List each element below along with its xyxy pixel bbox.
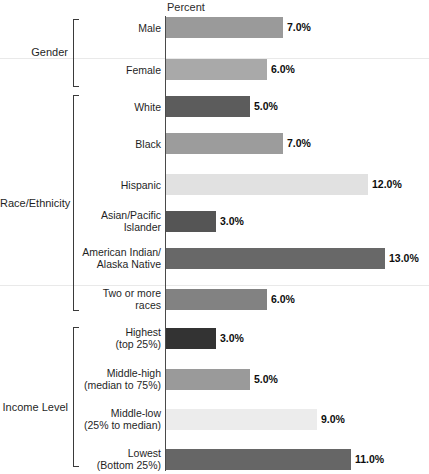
bar-value-black: 7.0% bbox=[287, 137, 311, 150]
bar-row-white[interactable]: White 5.0% bbox=[0, 96, 429, 117]
category-label-line1: Middle-high bbox=[72, 368, 161, 380]
group-bracket-race-ethnicity bbox=[73, 95, 79, 311]
group-label-race-ethnicity: Race/Ethnicity bbox=[0, 197, 68, 210]
bar-row-female[interactable]: Female 6.0% bbox=[0, 59, 429, 80]
bar-row-male[interactable]: Male 7.0% bbox=[0, 17, 429, 38]
category-label-lowest: Lowest (Bottom 25%) bbox=[82, 448, 161, 471]
bar-value-female: 6.0% bbox=[271, 63, 295, 76]
bar-hispanic[interactable] bbox=[166, 174, 368, 195]
category-label-two-or-more-races: Two or more races bbox=[82, 288, 161, 311]
category-label-line1: Asian/Pacific bbox=[82, 210, 161, 222]
bar-value-middle-low: 9.0% bbox=[321, 413, 345, 426]
bar-black[interactable] bbox=[166, 133, 283, 154]
category-label-line1: American Indian/ bbox=[72, 247, 161, 259]
category-label-line2: races bbox=[82, 300, 161, 312]
bar-value-lowest: 11.0% bbox=[355, 453, 384, 466]
bar-row-asian-pacific-islander[interactable]: Asian/Pacific Islander 3.0% bbox=[0, 211, 429, 232]
bar-value-white: 5.0% bbox=[254, 100, 278, 113]
bar-value-male: 7.0% bbox=[287, 21, 311, 34]
axis-title-percent: Percent bbox=[167, 1, 205, 14]
bar-row-middle-high[interactable]: Middle-high (median to 75%) 5.0% bbox=[0, 369, 429, 390]
bar-value-two-or-more-races: 6.0% bbox=[271, 293, 295, 306]
bar-row-two-or-more-races[interactable]: Two or more races 6.0% bbox=[0, 289, 429, 310]
category-label-asian-pacific-islander: Asian/Pacific Islander bbox=[82, 210, 161, 233]
category-label-line2: (top 25%) bbox=[82, 339, 161, 351]
bar-middle-high[interactable] bbox=[166, 369, 250, 390]
bar-row-lowest[interactable]: Lowest (Bottom 25%) 11.0% bbox=[0, 449, 429, 470]
category-label-middle-low: Middle-low (25% to median) bbox=[72, 408, 161, 431]
bar-row-black[interactable]: Black 7.0% bbox=[0, 133, 429, 154]
category-label-line1: Middle-low bbox=[72, 408, 161, 420]
category-label-black: Black bbox=[82, 138, 161, 150]
bar-female[interactable] bbox=[166, 59, 267, 80]
category-label-female: Female bbox=[82, 64, 161, 76]
bar-two-or-more-races[interactable] bbox=[166, 289, 267, 310]
category-label-middle-high: Middle-high (median to 75%) bbox=[72, 368, 161, 391]
category-axis-line bbox=[165, 16, 166, 471]
group-label-gender: Gender bbox=[0, 46, 68, 59]
category-label-line2: Alaska Native bbox=[72, 259, 161, 271]
bar-chart: Percent Gender Male 7.0% Female 6.0% Rac… bbox=[0, 0, 429, 474]
category-label-line2: Islander bbox=[82, 222, 161, 234]
category-label-line1: Two or more bbox=[82, 288, 161, 300]
category-label-line1: Lowest bbox=[82, 448, 161, 460]
bar-value-middle-high: 5.0% bbox=[254, 373, 278, 386]
category-label-line2: (Bottom 25%) bbox=[82, 460, 161, 472]
bar-lowest[interactable] bbox=[166, 449, 351, 470]
category-label-white: White bbox=[82, 101, 161, 113]
category-label-line2: (median to 75%) bbox=[72, 380, 161, 392]
bar-row-american-indian-alaska-native[interactable]: American Indian/ Alaska Native 13.0% bbox=[0, 248, 429, 269]
category-label-hispanic: Hispanic bbox=[82, 179, 161, 191]
bar-row-middle-low[interactable]: Middle-low (25% to median) 9.0% bbox=[0, 409, 429, 430]
category-label-line2: (25% to median) bbox=[72, 420, 161, 432]
bar-row-hispanic[interactable]: Hispanic 12.0% bbox=[0, 174, 429, 195]
bar-value-hispanic: 12.0% bbox=[372, 178, 402, 191]
bar-value-highest: 3.0% bbox=[220, 332, 244, 345]
bar-male[interactable] bbox=[166, 17, 283, 38]
bar-asian-pacific-islander[interactable] bbox=[166, 211, 216, 232]
bar-american-indian-alaska-native[interactable] bbox=[166, 248, 385, 269]
bar-value-american-indian-alaska-native: 13.0% bbox=[389, 252, 419, 265]
category-label-line1: Highest bbox=[82, 327, 161, 339]
bar-white[interactable] bbox=[166, 96, 250, 117]
category-label-highest: Highest (top 25%) bbox=[82, 327, 161, 350]
category-label-american-indian-alaska-native: American Indian/ Alaska Native bbox=[72, 247, 161, 270]
category-label-male: Male bbox=[82, 22, 161, 34]
bar-value-asian-pacific-islander: 3.0% bbox=[220, 215, 244, 228]
bar-middle-low[interactable] bbox=[166, 409, 317, 430]
bar-highest[interactable] bbox=[166, 328, 216, 349]
bar-row-highest[interactable]: Highest (top 25%) 3.0% bbox=[0, 328, 429, 349]
scan-artifact-line bbox=[0, 285, 429, 286]
